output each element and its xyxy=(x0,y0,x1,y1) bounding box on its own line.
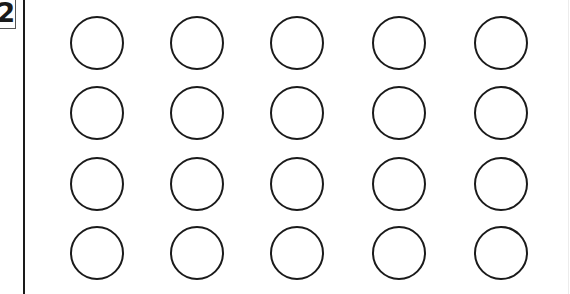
empty-circle xyxy=(474,157,528,211)
empty-circle xyxy=(170,86,224,140)
worksheet-page: 2 xyxy=(0,0,570,294)
empty-circle xyxy=(372,16,426,70)
empty-circle xyxy=(70,16,124,70)
vertical-divider xyxy=(23,0,25,294)
empty-circle xyxy=(372,157,426,211)
empty-circle xyxy=(270,226,324,280)
empty-circle xyxy=(474,86,528,140)
empty-circle xyxy=(70,86,124,140)
empty-circle xyxy=(270,16,324,70)
problem-number-box: 2 xyxy=(0,0,16,29)
empty-circle xyxy=(170,226,224,280)
empty-circle xyxy=(372,86,426,140)
right-edge-line xyxy=(568,0,569,294)
empty-circle xyxy=(70,226,124,280)
empty-circle xyxy=(170,16,224,70)
problem-number: 2 xyxy=(0,0,15,26)
empty-circle xyxy=(474,226,528,280)
empty-circle xyxy=(70,157,124,211)
empty-circle xyxy=(170,157,224,211)
empty-circle xyxy=(270,86,324,140)
empty-circle xyxy=(474,16,528,70)
empty-circle xyxy=(372,226,426,280)
empty-circle xyxy=(270,157,324,211)
